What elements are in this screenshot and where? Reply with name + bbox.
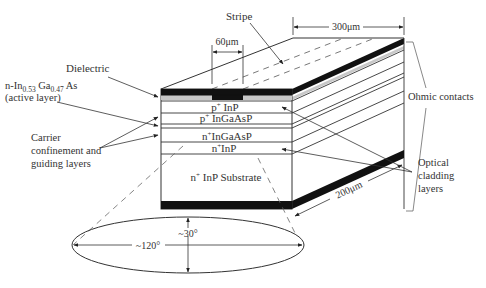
length-label: 300μm: [332, 21, 360, 32]
bottom-contact: [161, 201, 292, 209]
layer-label-substrate: n+ InP Substrate: [191, 171, 262, 183]
laser-diagram: p+ InP p+ InGaAsP n+InGaAsP n+InP n+ InP…: [0, 0, 486, 288]
carrier-label-1: Carrier: [31, 132, 61, 143]
dielectric-left: [161, 95, 212, 100]
active-layer-sublabel: (active layer): [5, 92, 61, 104]
stripe-label: Stripe: [226, 10, 252, 22]
optical-label-1: Optical: [418, 157, 449, 168]
carrier-label-2: confinement and: [31, 145, 102, 156]
top-contact: [161, 89, 292, 95]
dielectric-right: [243, 95, 292, 100]
optical-label-3: layers: [418, 183, 443, 194]
carrier-label-3: guiding layers: [31, 158, 91, 169]
beam-horizontal-label: ~120°: [136, 240, 160, 251]
stripe-contact: [212, 95, 243, 100]
optical-label-2: cladding: [418, 170, 455, 181]
ohmic-contacts-label: Ohmic contacts: [408, 91, 474, 102]
stripe-width-label: 60μm: [215, 36, 238, 47]
dielectric-label: Dielectric: [66, 62, 109, 74]
beam-ellipse: [72, 217, 304, 273]
beam-vertical-label: ~30°: [178, 228, 197, 239]
carrier-arrows: [100, 117, 158, 148]
layer-label-n-inp: n+InP: [212, 142, 237, 154]
